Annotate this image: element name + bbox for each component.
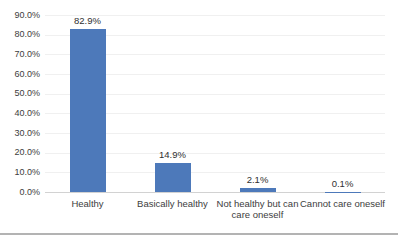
y-axis-tick-label: 10.0% [0,167,40,178]
bottom-border-line [0,233,398,235]
y-axis-tick-label: 0.0% [0,187,40,198]
x-axis-category-label: Cannot care oneself [296,198,390,209]
bar-value-label: 14.9% [143,149,203,160]
y-axis-tick-label: 40.0% [0,108,40,119]
y-axis-tick-label: 70.0% [0,49,40,60]
y-axis-tick-label: 20.0% [0,147,40,158]
x-axis-category-label: Healthy [41,198,135,209]
bar-not-healthy-but-can-care-oneself [240,188,276,192]
x-axis-category-label: Basically healthy [126,198,220,209]
bar-value-label: 2.1% [228,174,288,185]
bar-chart: 90.0%80.0%70.0%60.0%50.0%40.0%30.0%20.0%… [0,0,398,236]
bar-value-label: 0.1% [313,178,373,189]
chart-page: 90.0%80.0%70.0%60.0%50.0%40.0%30.0%20.0%… [0,0,398,236]
bar-value-label: 82.9% [58,15,118,26]
y-axis-tick-label: 80.0% [0,29,40,40]
y-axis-tick-label: 60.0% [0,69,40,80]
y-axis-tick-label: 50.0% [0,88,40,99]
bar-basically-healthy [155,163,191,192]
y-axis-tick-label: 30.0% [0,128,40,139]
y-axis-tick-label: 90.0% [0,10,40,21]
x-axis-category-label: Not healthy but can care oneself [211,198,305,220]
x-axis-line [45,192,385,193]
bar-healthy [70,29,106,192]
